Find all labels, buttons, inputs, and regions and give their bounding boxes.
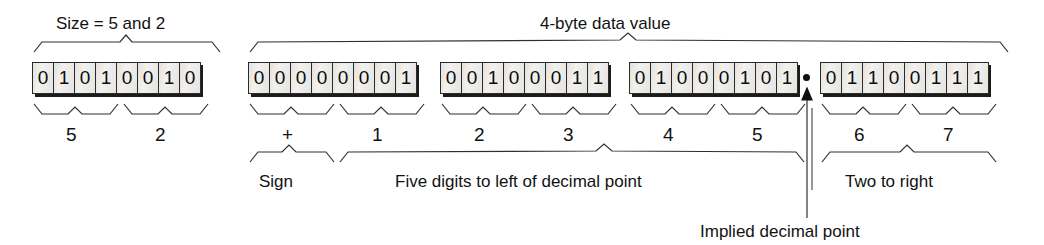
bit: 0 <box>74 62 96 94</box>
bit: 0 <box>524 62 546 94</box>
bit: 1 <box>967 62 989 94</box>
bit: 0 <box>374 62 396 94</box>
right-of-point-group-label: Two to right <box>845 172 933 192</box>
left-of-point-group-label: Five digits to left of decimal point <box>395 172 642 192</box>
brace-left-of-point-group <box>340 144 804 162</box>
size-byte: 0 1 0 1 0 0 1 0 <box>32 62 200 94</box>
bit: 0 <box>503 62 525 94</box>
nibble-label-5b: 5 <box>752 124 763 146</box>
bit: 0 <box>269 62 291 94</box>
brace-nibble-1 <box>340 104 424 114</box>
bit: 1 <box>482 62 504 94</box>
data-byte-1: 0 0 0 0 0 0 0 1 <box>248 62 416 94</box>
brace-nibble-2b <box>442 104 526 114</box>
nibble-label-4: 4 <box>663 124 674 146</box>
bit: 0 <box>137 62 159 94</box>
bit: 0 <box>692 62 714 94</box>
data-byte-4: 0 1 1 0 0 1 1 1 <box>820 62 988 94</box>
brace-sign-group <box>250 145 334 162</box>
brace-overlay <box>0 0 1044 245</box>
bit: 1 <box>650 62 672 94</box>
bit: 1 <box>53 62 75 94</box>
nibble-label-5a: 5 <box>66 124 77 146</box>
bit: 1 <box>395 62 417 94</box>
data-value-title: 4-byte data value <box>540 14 670 34</box>
nibble-label-6: 6 <box>854 124 865 146</box>
bit: 0 <box>311 62 333 94</box>
bit: 0 <box>755 62 777 94</box>
bit: 1 <box>158 62 180 94</box>
bit: 0 <box>440 62 462 94</box>
data-byte-3: 0 1 0 0 0 1 0 1 <box>629 62 797 94</box>
bit: 1 <box>925 62 947 94</box>
bit: 0 <box>461 62 483 94</box>
bit: 1 <box>862 62 884 94</box>
data-byte-2: 0 0 1 0 0 0 1 1 <box>440 62 608 94</box>
nibble-label-sign: + <box>282 124 293 146</box>
bit: 0 <box>179 62 201 94</box>
brace-nibble-6 <box>822 104 906 114</box>
brace-nibble-7 <box>912 104 996 114</box>
bit: 0 <box>332 62 354 94</box>
bit: 1 <box>841 62 863 94</box>
bit: 0 <box>353 62 375 94</box>
nibble-label-2a: 2 <box>155 124 166 146</box>
bit: 0 <box>713 62 735 94</box>
bit: 1 <box>776 62 798 94</box>
nibble-label-1: 1 <box>372 124 383 146</box>
bit: 0 <box>629 62 651 94</box>
bit: 0 <box>820 62 842 94</box>
brace-nibble-4 <box>631 104 715 114</box>
bit: 0 <box>883 62 905 94</box>
bit: 0 <box>116 62 138 94</box>
bit: 1 <box>587 62 609 94</box>
bit: 1 <box>734 62 756 94</box>
brace-nibble-5b <box>721 104 805 114</box>
bit: 1 <box>566 62 588 94</box>
sign-group-label: Sign <box>259 172 293 192</box>
brace-nibble-sign <box>250 104 334 114</box>
bit: 0 <box>545 62 567 94</box>
nibble-label-2b: 2 <box>474 124 485 146</box>
brace-right-of-point-group <box>822 145 996 162</box>
implied-point-arrowhead <box>802 88 812 100</box>
bit: 0 <box>290 62 312 94</box>
nibble-label-7: 7 <box>943 124 954 146</box>
nibble-label-3: 3 <box>563 124 574 146</box>
bit: 0 <box>671 62 693 94</box>
brace-nibble-3 <box>532 104 616 114</box>
bit: 0 <box>32 62 54 94</box>
implied-decimal-point-dot <box>803 74 810 81</box>
encoded-decimal-field-diagram: Size = 5 and 2 4-byte data value 0 1 0 1… <box>0 0 1044 245</box>
brace-nibble-5a <box>34 104 118 114</box>
brace-size-top <box>34 35 220 52</box>
size-title: Size = 5 and 2 <box>56 14 165 34</box>
bit: 0 <box>248 62 270 94</box>
bit: 1 <box>95 62 117 94</box>
implied-decimal-point-caption: Implied decimal point <box>700 222 860 242</box>
bit: 0 <box>904 62 926 94</box>
brace-data-value-top <box>250 33 1008 52</box>
bit: 1 <box>946 62 968 94</box>
brace-nibble-2a <box>124 104 208 114</box>
